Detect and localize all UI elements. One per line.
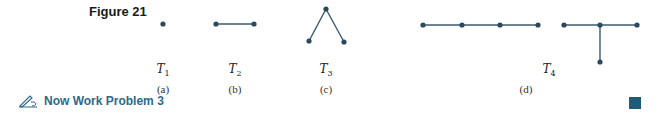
- now-work-label: Now Work Problem 3: [44, 94, 164, 108]
- tree-label-t2: T2: [228, 62, 241, 78]
- part-label-c: (c): [320, 83, 332, 95]
- end-of-section-mark: [629, 97, 641, 109]
- tree-label-t3: T3: [319, 62, 332, 78]
- t1-vertex: [160, 21, 165, 26]
- tree-label-t1: T1: [156, 62, 169, 78]
- part-label-d: (d): [520, 83, 533, 95]
- tree-label-t4: T4: [542, 62, 555, 78]
- pencil-writing-icon: [18, 94, 38, 108]
- now-work-link[interactable]: Now Work Problem 3: [18, 94, 164, 108]
- part-label-b: (b): [229, 83, 242, 95]
